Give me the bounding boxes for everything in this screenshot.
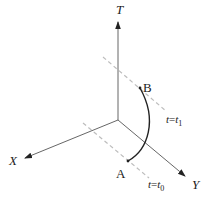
time-slice-label-t1: t=t1 (166, 113, 182, 128)
point-a-label: A (116, 166, 126, 181)
y-axis (118, 120, 185, 176)
y-axis-label: Y (192, 177, 201, 192)
t0-sub: 0 (160, 184, 164, 193)
point-b-label: B (143, 80, 152, 95)
time-slice-line-t1 (103, 57, 166, 111)
world-line-curve (128, 88, 149, 161)
spacetime-diagram: T X Y B A t=t1 t=t0 (0, 0, 209, 201)
x-axis (25, 120, 118, 158)
t1-sub: 1 (178, 119, 182, 128)
t-axis-label: T (116, 2, 124, 17)
time-slice-label-t0: t=t0 (148, 178, 164, 193)
point-a-dot (127, 160, 130, 163)
point-b-dot (139, 87, 142, 90)
x-axis-label: X (8, 153, 18, 168)
